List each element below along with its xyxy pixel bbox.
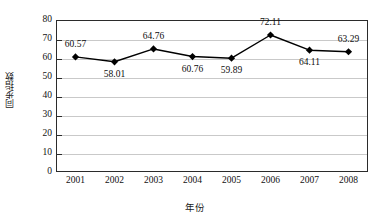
data-point-label: 64.76 [131, 32, 177, 42]
data-point-label: 72.11 [248, 18, 294, 28]
data-point-label: 64.11 [287, 58, 333, 68]
x-axis-title: 年份 [0, 200, 390, 214]
line-chart: 同步指数 01020304050607080 60.5758.0164.7660… [0, 0, 390, 222]
y-axis-tick-label: 40 [18, 91, 52, 101]
y-axis-title: 同步指数 [2, 50, 16, 130]
data-point-label: 63.29 [326, 35, 372, 45]
y-axis-tick-mark [57, 59, 62, 60]
y-axis-tick-mark [57, 116, 62, 117]
x-axis-tick-label: 2005 [212, 176, 252, 186]
y-axis-tick-label: 80 [18, 15, 52, 25]
gridline [57, 40, 367, 41]
x-axis-tick-label: 2006 [251, 176, 291, 186]
y-axis-tick-label: 60 [18, 53, 52, 63]
x-axis-tick-label: 2004 [173, 176, 213, 186]
x-axis-tick-label: 2008 [329, 176, 369, 186]
gridline [57, 154, 367, 155]
y-axis-tick-label: 10 [18, 148, 52, 158]
y-axis-tick-label: 20 [18, 129, 52, 139]
gridline [57, 116, 367, 117]
y-axis-tick-label: 50 [18, 72, 52, 82]
y-axis-tick-mark [57, 78, 62, 79]
x-axis-tick-label: 2001 [56, 176, 96, 186]
y-axis-tick-mark [57, 135, 62, 136]
gridline [57, 97, 367, 98]
x-axis-tick-labels: 20012002200320042005200620072008 [0, 176, 390, 192]
gridline [57, 135, 367, 136]
plot-area [56, 20, 368, 172]
data-point-label: 60.57 [53, 40, 99, 50]
y-axis-tick-mark [57, 154, 62, 155]
y-axis-tick-mark [57, 97, 62, 98]
x-axis-tick-label: 2007 [290, 176, 330, 186]
y-axis-tick-label: 70 [18, 34, 52, 44]
x-axis-tick-label: 2002 [95, 176, 135, 186]
data-point-label: 59.89 [209, 66, 255, 76]
data-point-label: 58.01 [92, 70, 138, 80]
x-axis-tick-label: 2003 [134, 176, 174, 186]
y-axis-tick-label: 30 [18, 110, 52, 120]
